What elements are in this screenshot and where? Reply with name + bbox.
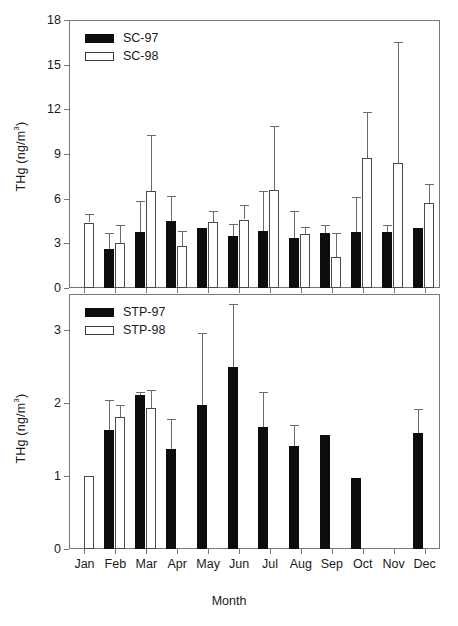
x-axis-tick: [270, 549, 271, 554]
x-axis-tick-label: Nov: [383, 557, 405, 571]
y-axis-tick-label: 3: [54, 323, 61, 337]
bar: [104, 430, 114, 549]
x-axis-tick: [177, 549, 178, 554]
bar: [393, 163, 403, 288]
bar: [413, 433, 423, 549]
error-bar-cap: [167, 419, 176, 420]
error-bar-cap: [425, 184, 434, 185]
error-bar: [109, 233, 110, 249]
bar: [115, 417, 125, 549]
bar: [289, 446, 299, 549]
bar: [424, 203, 434, 288]
error-bar: [109, 400, 110, 431]
bar: [239, 220, 249, 288]
x-axis-tick-label: Dec: [413, 557, 435, 571]
x-axis-tick: [115, 549, 116, 554]
legend-swatch-filled-icon: [85, 308, 114, 317]
y-axis-tick: [64, 330, 69, 331]
legend-label: STP-98: [123, 324, 165, 337]
error-bar: [213, 211, 214, 221]
error-bar: [89, 214, 90, 222]
bar: [135, 395, 145, 549]
bar: [331, 257, 341, 288]
error-bar-cap: [290, 425, 299, 426]
bar: [258, 427, 268, 549]
error-bar: [418, 409, 419, 433]
x-axis-tick-label: Mar: [136, 557, 158, 571]
bar: [269, 190, 279, 288]
error-bar-cap: [259, 191, 268, 192]
error-bar-cap: [240, 205, 249, 206]
error-bar-cap: [332, 233, 341, 234]
y-axis-tick-label: 15: [47, 58, 61, 72]
bar: [197, 405, 207, 549]
error-bar-cap: [414, 409, 423, 410]
x-axis-tick-label: Jun: [229, 557, 249, 571]
x-axis-tick: [239, 549, 240, 554]
y-axis-tick: [64, 549, 69, 550]
x-axis-tick: [425, 549, 426, 554]
figure-canvas: THg (ng/m3) THg (ng/m3) 0369121518 SC-97…: [0, 0, 458, 626]
error-bar: [171, 196, 172, 221]
legend-item: SC-97: [85, 31, 158, 46]
error-bar-cap: [394, 42, 403, 43]
x-axis-tick-label: Sep: [321, 557, 343, 571]
legend-swatch-open-icon: [85, 326, 114, 335]
bar: [258, 231, 268, 288]
x-axis-tick: [301, 288, 302, 293]
bar: [146, 408, 156, 549]
error-bar: [263, 392, 264, 427]
x-axis-tick: [425, 288, 426, 293]
error-bar-cap: [352, 197, 361, 198]
legend-swatch-open-icon: [85, 52, 114, 61]
bar: [228, 236, 238, 288]
error-bar-cap: [178, 231, 187, 232]
legend-swatch-filled-icon: [85, 34, 114, 43]
bar: [289, 238, 299, 288]
error-bar: [294, 425, 295, 445]
x-axis-tick: [146, 549, 147, 554]
error-bar: [233, 304, 234, 367]
error-bar: [387, 225, 388, 232]
x-axis-title: Month: [0, 594, 458, 608]
y-axis-tick: [64, 476, 69, 477]
error-bar: [356, 197, 357, 232]
chart-panel-stp: 0123JanFebMarAprMayJunJulAugSepOctNovDec…: [69, 294, 440, 549]
y-axis-tick-label: 1: [54, 469, 61, 483]
bar: [413, 228, 423, 288]
error-bar-cap: [383, 225, 392, 226]
error-bar: [274, 126, 275, 191]
bar: [382, 232, 392, 288]
error-bar-cap: [136, 392, 145, 393]
x-axis-tick: [394, 288, 395, 293]
y-axis-tick: [64, 403, 69, 404]
error-bar-cap: [85, 214, 94, 215]
bar: [115, 243, 125, 288]
error-bar-cap: [363, 112, 372, 113]
legend-label: STP-97: [123, 306, 165, 319]
legend-label: SC-98: [123, 50, 158, 63]
error-bar-cap: [105, 233, 114, 234]
y-axis-title-bottom: THg (ng/m3): [12, 354, 27, 504]
y-axis-tick: [64, 20, 69, 21]
bar: [362, 158, 372, 288]
error-bar-cap: [270, 126, 279, 127]
legend-stp: STP-97 STP-98: [85, 305, 165, 341]
x-axis-tick: [115, 288, 116, 293]
error-bar-cap: [116, 405, 125, 406]
error-bar: [120, 405, 121, 417]
x-axis-tick: [332, 288, 333, 293]
error-bar-cap: [301, 227, 310, 228]
y-axis-tick-label: 3: [54, 236, 61, 250]
error-bar: [151, 135, 152, 192]
error-bar: [151, 390, 152, 408]
error-bar: [171, 419, 172, 449]
error-bar: [140, 201, 141, 232]
y-axis-tick-label: 12: [47, 102, 61, 116]
y-axis-tick: [64, 288, 69, 289]
bar: [166, 221, 176, 288]
x-axis-tick-label: Feb: [105, 557, 127, 571]
y-axis-title-top: THg (ng/m3): [12, 82, 27, 232]
error-bar-cap: [321, 225, 330, 226]
x-axis-tick: [332, 549, 333, 554]
